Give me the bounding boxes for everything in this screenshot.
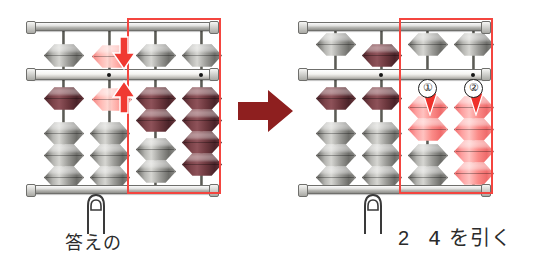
abacus-after: ① ② (302, 22, 487, 194)
rail-cap-left-bottom (298, 184, 308, 197)
beam-cap-left (26, 68, 36, 81)
heaven-bead-col1[interactable] (44, 42, 84, 69)
rail-cap-left (26, 21, 36, 34)
arrow-up-icon-earth (112, 80, 136, 114)
earth-bead-col1-1[interactable] (316, 85, 356, 112)
rail-cap-left (298, 21, 308, 34)
right-arrow-icon (238, 88, 294, 134)
abacus-before (30, 22, 215, 194)
beam-unit-dot-4 (199, 73, 203, 77)
figure-canvas: 答えの (0, 0, 548, 256)
beam-unit-dot-2 (379, 73, 383, 77)
earth-bead-col1-1[interactable] (44, 85, 84, 112)
beam-cap-left (298, 68, 308, 81)
heaven-bead-col1[interactable] (316, 31, 356, 58)
beam-unit-dot-2 (107, 73, 111, 77)
highlight-rectangle-before (127, 18, 221, 194)
beam-unit-dot-4 (471, 73, 475, 77)
caption-before: 答えの (65, 228, 122, 254)
arrow-down-icon-heaven (112, 36, 136, 70)
rail-cap-left-bottom (26, 184, 36, 197)
caption-after-prefix: 2 (398, 227, 410, 249)
step-marker-2: ② (464, 79, 483, 98)
heaven-bead-col2[interactable] (362, 42, 402, 69)
caption-after: 24 を引く (398, 222, 512, 251)
caption-after-suffix: 4 を引く (428, 226, 512, 250)
finger-pointer-icon-right (355, 192, 391, 234)
earth-bead-col2-1[interactable] (362, 85, 402, 112)
step-marker-1: ① (418, 79, 437, 98)
